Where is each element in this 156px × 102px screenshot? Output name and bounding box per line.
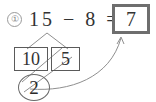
decomposition-box-tens[interactable]: 10 <box>14 47 48 71</box>
problem-number-badge: ① <box>7 12 22 27</box>
remainder-value: 2 <box>29 77 39 99</box>
answer-box[interactable]: 7 <box>112 4 150 34</box>
equation-text: 15 − 8 = <box>29 9 121 29</box>
decomposition-box-ones[interactable]: 5 <box>51 47 80 71</box>
decomposition-tens-value: 10 <box>22 49 40 70</box>
math-worksheet-problem: ① 15 − 8 = 7 10 5 2 <box>0 0 156 102</box>
arrowhead-icon <box>117 37 124 44</box>
remainder-circle[interactable]: 2 <box>18 74 50 101</box>
answer-value: 7 <box>126 8 136 31</box>
decomposition-ones-value: 5 <box>61 49 70 70</box>
